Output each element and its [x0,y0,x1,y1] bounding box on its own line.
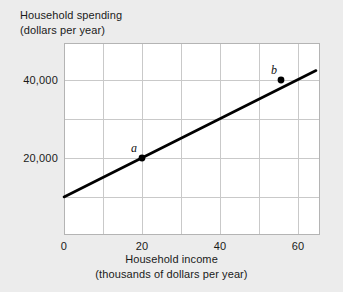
x-tick-label-60: 60 [278,240,318,252]
x-tick-label-0: 0 [44,240,84,252]
gridline-horizontal [65,158,319,159]
plot-area [64,43,320,235]
gridline-horizontal [65,119,319,120]
x-axis-title-line1: Household income [125,253,218,265]
y-axis-title-line1: Household spending [20,9,122,21]
y-tick-label-20000: 20,000 [4,152,58,164]
gridline-horizontal [65,197,319,198]
gridline-vertical [220,44,221,234]
gridline-vertical [259,44,260,234]
x-tick-label-20: 20 [122,240,162,252]
gridline-vertical [298,44,299,234]
y-tick-label-40000: 40,000 [4,74,58,86]
point-label-a: a [131,141,137,156]
gridline-vertical [103,44,104,234]
y-axis-title: Household spending (dollars per year) [20,8,122,37]
chart-figure: Household spending (dollars per year) 40… [0,0,343,292]
gridline-horizontal [65,80,319,81]
x-axis-title-line2: (thousands of dollars per year) [0,267,343,282]
y-axis-title-line2: (dollars per year) [20,23,122,38]
x-axis-title: Household income (thousands of dollars p… [0,252,343,281]
x-tick-label-40: 40 [200,240,240,252]
point-label-b: b [271,63,277,78]
gridline-vertical [181,44,182,234]
gridline-vertical [142,44,143,234]
